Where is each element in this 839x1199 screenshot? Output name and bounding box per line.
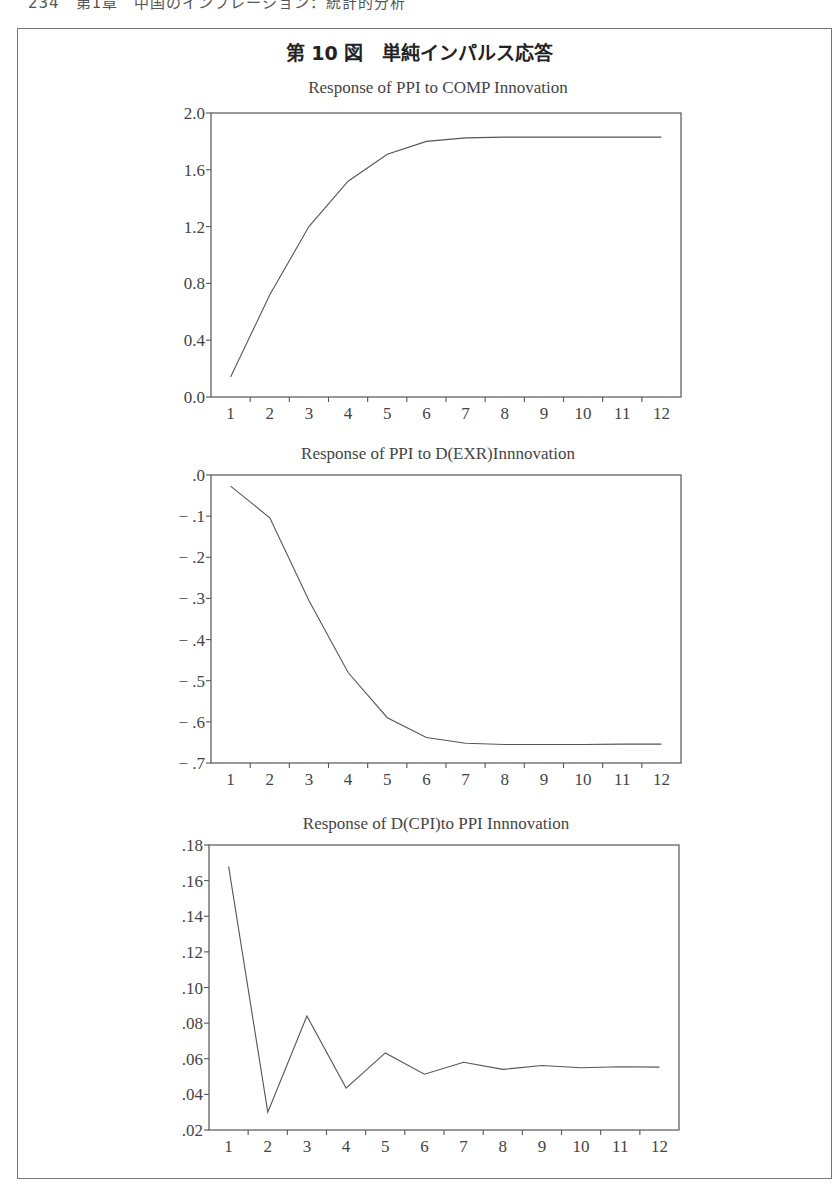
x-tick-label: 12: [653, 770, 670, 789]
y-tick-label: .0: [192, 466, 205, 485]
x-tick-label: 3: [305, 404, 314, 423]
y-tick-label: .10: [182, 979, 203, 998]
chart-ppi-exr: Response of PPI to D(EXR)Innnovation .0−…: [178, 444, 681, 789]
x-tick-label: 8: [499, 1137, 508, 1156]
x-tick-label: 6: [420, 1137, 429, 1156]
x-tick-label: 6: [422, 404, 431, 423]
x-tick-label: 5: [383, 404, 392, 423]
x-tick-label: 9: [540, 404, 549, 423]
y-tick-label: .08: [182, 1014, 203, 1033]
x-tick-label: 2: [266, 404, 275, 423]
x-tick-label: 12: [653, 404, 670, 423]
x-tick-label: 7: [459, 1137, 468, 1156]
y-tick-label: − .4: [178, 631, 205, 650]
y-tick-label: 0.0: [184, 388, 205, 407]
y-tick-label: − .1: [178, 507, 205, 526]
y-tick-label: 1.2: [184, 218, 205, 237]
response-line: [231, 137, 662, 377]
x-tick-label: 6: [422, 770, 431, 789]
y-tick-label: .04: [182, 1085, 204, 1104]
x-tick-label: 7: [461, 770, 470, 789]
x-tick-label: 11: [614, 404, 630, 423]
response-line: [231, 486, 662, 744]
x-tick-label: 11: [612, 1137, 628, 1156]
y-tick-label: .18: [182, 836, 203, 855]
y-tick-label: 1.6: [184, 161, 205, 180]
chart-title: Response of PPI to D(EXR)Innnovation: [301, 444, 575, 463]
chart-ppi-comp: Response of PPI to COMP Innovation 0.00.…: [184, 78, 681, 423]
impulse-response-charts: Response of PPI to COMP Innovation 0.00.…: [0, 0, 839, 1199]
x-tick-label: 4: [344, 404, 353, 423]
y-tick-label: 2.0: [184, 104, 205, 123]
response-line: [229, 866, 660, 1112]
x-tick-label: 4: [342, 1137, 351, 1156]
y-tick-label: − .7: [178, 754, 205, 773]
y-tick-label: 0.4: [184, 331, 206, 350]
x-tick-label: 3: [303, 1137, 312, 1156]
y-tick-label: .14: [182, 907, 204, 926]
y-tick-label: .06: [182, 1050, 203, 1069]
plot-area: [211, 475, 681, 763]
y-tick-label: .12: [182, 943, 203, 962]
x-tick-label: 5: [383, 770, 392, 789]
x-tick-label: 10: [575, 404, 592, 423]
x-tick-label: 1: [226, 770, 235, 789]
chart-title: Response of PPI to COMP Innovation: [308, 78, 568, 97]
chart-cpi-ppi: Response of D(CPI)to PPI Innnovation .02…: [182, 814, 679, 1156]
x-tick-label: 1: [226, 404, 235, 423]
x-tick-label: 12: [651, 1137, 668, 1156]
plot-area: [209, 845, 679, 1130]
x-tick-label: 10: [573, 1137, 590, 1156]
axis-ticks: 0.00.40.81.21.62.0123456789101112: [184, 104, 670, 423]
y-tick-label: .16: [182, 872, 203, 891]
x-tick-label: 8: [501, 770, 510, 789]
x-tick-label: 11: [614, 770, 630, 789]
x-tick-label: 3: [305, 770, 314, 789]
x-tick-label: 1: [224, 1137, 233, 1156]
x-tick-label: 7: [461, 404, 470, 423]
x-tick-label: 5: [381, 1137, 390, 1156]
x-tick-label: 9: [538, 1137, 547, 1156]
y-tick-label: 0.8: [184, 274, 205, 293]
y-tick-label: − .2: [178, 548, 205, 567]
x-tick-label: 10: [575, 770, 592, 789]
y-tick-label: − .3: [178, 589, 205, 608]
y-tick-label: .02: [182, 1121, 203, 1140]
plot-area: [211, 113, 681, 397]
chart-title: Response of D(CPI)to PPI Innnovation: [303, 814, 570, 833]
y-tick-label: − .5: [178, 672, 205, 691]
x-tick-label: 9: [540, 770, 549, 789]
x-tick-label: 8: [501, 404, 510, 423]
axis-ticks: .0− .1− .2− .3− .4− .5− .6− .71234567891…: [178, 466, 670, 789]
axis-ticks: .02.04.06.08.10.12.14.16.181234567891011…: [182, 836, 668, 1156]
x-tick-label: 2: [266, 770, 275, 789]
x-tick-label: 2: [264, 1137, 273, 1156]
x-tick-label: 4: [344, 770, 353, 789]
y-tick-label: − .6: [178, 713, 205, 732]
